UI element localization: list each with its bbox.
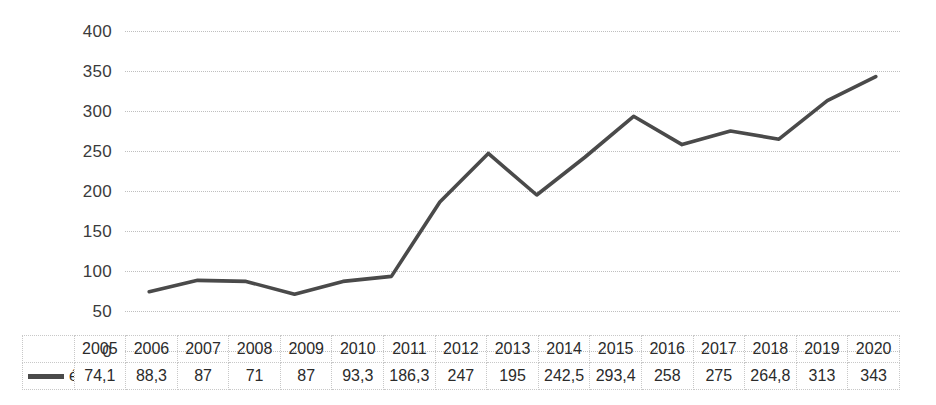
table-value-cell: 343 (848, 363, 900, 390)
y-tick-label: 200 (0, 183, 112, 200)
table-value-cell: 275 (693, 363, 745, 390)
table-header-cell: 2007 (177, 336, 229, 363)
line-chart: 400 350 300 250 200 150 100 50 0 2005 20… (0, 0, 936, 405)
table-header-cell: 2009 (280, 336, 332, 363)
table-value-cell: 88,3 (126, 363, 178, 390)
table-value-cell: 264,8 (745, 363, 797, 390)
y-tick-label: 150 (0, 223, 112, 240)
table-value-cell: 93,3 (332, 363, 384, 390)
table-row-header: 2005 2006 2007 2008 2009 2010 2011 2012 … (23, 336, 900, 363)
table-header-cell: 2019 (796, 336, 848, 363)
y-tick-label: 300 (0, 103, 112, 120)
table-value-cell: 242,5 (538, 363, 590, 390)
legend-entry: éves+ (23, 363, 75, 390)
table-header-cell: 2008 (229, 336, 281, 363)
legend-line-swatch-icon (28, 374, 64, 379)
table-value-cell: 186,3 (384, 363, 436, 390)
series-line-eves-plus (125, 31, 900, 351)
table-header-cell: 2011 (384, 336, 436, 363)
table-header-cell: 2013 (487, 336, 539, 363)
table-header-cell: 2010 (332, 336, 384, 363)
table-header-cell: 2015 (590, 336, 642, 363)
table-value-cell: 247 (435, 363, 487, 390)
y-tick-label: 350 (0, 63, 112, 80)
table-value-cell: 87 (280, 363, 332, 390)
table-value-cell: 313 (796, 363, 848, 390)
y-tick-label: 250 (0, 143, 112, 160)
table-value-cell: 258 (641, 363, 693, 390)
plot-area (125, 31, 900, 351)
table-value-cell: 195 (487, 363, 539, 390)
y-tick-label: 50 (0, 303, 112, 320)
y-tick-label: 100 (0, 263, 112, 280)
table-header-cell: 2012 (435, 336, 487, 363)
table-header-cell: 2020 (848, 336, 900, 363)
table-row-values: éves+ 74,1 88,3 87 71 87 93,3 186,3 247 … (23, 363, 900, 390)
table-header-cell: 2016 (641, 336, 693, 363)
table-corner-cell (23, 336, 75, 363)
table-value-cell: 87 (177, 363, 229, 390)
table-header-cell: 2005 (74, 336, 126, 363)
table-value-cell: 71 (229, 363, 281, 390)
data-table: 2005 2006 2007 2008 2009 2010 2011 2012 … (22, 335, 900, 387)
y-tick-label: 400 (0, 23, 112, 40)
legend-series-label: éves+ (69, 367, 74, 385)
table-value-cell: 293,4 (590, 363, 642, 390)
table-header-cell: 2014 (538, 336, 590, 363)
table-header-cell: 2018 (745, 336, 797, 363)
table-header-cell: 2017 (693, 336, 745, 363)
table-header-cell: 2006 (126, 336, 178, 363)
table-value-cell: 74,1 (74, 363, 126, 390)
